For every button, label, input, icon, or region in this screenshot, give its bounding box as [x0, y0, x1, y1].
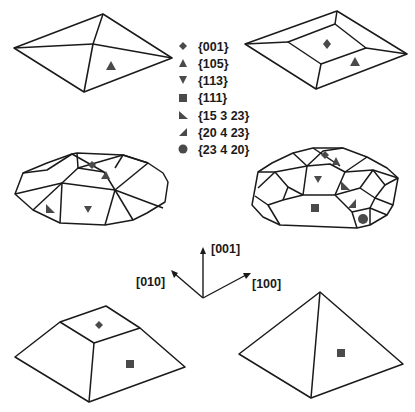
circle-icon — [179, 145, 188, 154]
barn-edge — [283, 187, 288, 200]
pyramid-105-edge — [14, 44, 93, 48]
axis-label-010: [010] — [136, 275, 165, 289]
legend-item: {001} — [179, 40, 229, 54]
barn-edge — [375, 185, 385, 198]
triangle-up-icon — [179, 59, 187, 67]
square-icon — [337, 349, 345, 357]
crystal-shapes-figure: {001} {105} {113} {111} {15 3 23} {20 4 … — [0, 0, 415, 412]
pyramid-105-edge — [93, 14, 103, 44]
dome-edge — [115, 190, 133, 220]
pyramid-105-edge — [84, 44, 93, 92]
dome-edge — [105, 190, 115, 225]
pyramid-111-edge — [311, 292, 320, 398]
axis-100-line — [203, 275, 246, 298]
square-icon — [179, 94, 187, 102]
legend-item: {113} — [179, 74, 228, 88]
legend-item: {15 3 23} — [179, 109, 250, 123]
left-triangle-icon — [179, 128, 187, 136]
truncated-105-edge — [316, 64, 321, 89]
triangle-down-icon — [179, 76, 187, 84]
truncated-111-outline — [15, 306, 185, 402]
legend-label: {20 4 23} — [198, 126, 250, 140]
axis-label-100: [100] — [252, 277, 281, 291]
dome-edge — [123, 155, 148, 163]
legend-label: {15 3 23} — [198, 109, 250, 123]
legend-label: {113} — [198, 74, 228, 88]
dome-edge — [115, 163, 148, 190]
arrow-up-icon — [200, 247, 206, 254]
dome-edge — [60, 183, 62, 223]
shape-truncated-pyramid-105 — [245, 11, 407, 89]
legend-label: {105} — [198, 57, 229, 71]
right-triangle-icon — [46, 204, 55, 213]
triangle-up-icon — [350, 57, 360, 66]
legend-label: {111} — [198, 91, 227, 105]
right-triangle-icon — [179, 111, 188, 119]
left-triangle-icon — [348, 199, 356, 208]
legend-item: {20 4 23} — [179, 126, 250, 140]
pyramid-111-outline — [239, 292, 403, 398]
dome-edge — [15, 183, 163, 208]
diamond-icon — [95, 321, 103, 329]
legend-item: {23 4 20} — [179, 143, 250, 157]
crystal-axes: [001] [010] [100] — [136, 242, 281, 298]
legend-label: {001} — [198, 40, 229, 54]
barn-edge — [370, 198, 375, 208]
shape-dome — [15, 153, 168, 225]
shape-truncated-pyramid-111 — [15, 306, 185, 402]
triangle-up-icon — [106, 61, 116, 70]
square-icon — [311, 204, 319, 212]
diamond-icon — [88, 161, 96, 169]
pyramid-105-outline — [14, 14, 172, 92]
triangle-down-icon — [84, 206, 92, 213]
shape-pyramid-111 — [239, 292, 403, 398]
legend-label: {23 4 20} — [198, 143, 250, 157]
diamond-icon — [179, 42, 187, 50]
axis-label-001: [001] — [211, 242, 240, 256]
triangle-down-icon — [314, 176, 322, 183]
dome-edge — [77, 153, 78, 168]
shape-pyramid-105 — [14, 14, 172, 92]
barn-edge — [345, 157, 367, 172]
barn-edge — [258, 172, 275, 188]
axis-010-line — [175, 274, 203, 298]
diamond-icon — [323, 39, 331, 49]
arrow-up-left-icon — [171, 270, 178, 278]
barn-edge — [293, 153, 307, 166]
legend-item: {105} — [179, 57, 229, 71]
barn-edge — [303, 166, 307, 195]
legend-item: {111} — [179, 91, 227, 105]
barn-edge — [255, 195, 303, 205]
circle-icon — [358, 214, 368, 224]
truncated-105-edge — [335, 11, 337, 24]
right-triangle-icon — [341, 181, 350, 190]
shape-barn — [252, 148, 398, 228]
legend: {001} {105} {113} {111} {15 3 23} {20 4 … — [179, 40, 250, 157]
square-icon — [126, 360, 134, 368]
barn-edge — [275, 170, 373, 195]
truncated-111-edge — [89, 343, 94, 402]
